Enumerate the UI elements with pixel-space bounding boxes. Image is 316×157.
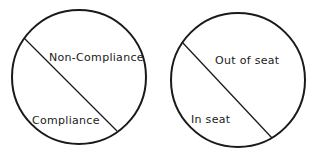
upper-label: Non-Compliance	[49, 51, 144, 64]
lower-label: Compliance	[32, 114, 100, 127]
lower-label: In seat	[191, 113, 231, 126]
circle-diagram-seat: Out of seat In seat	[171, 13, 305, 147]
circle-diagram-compliance: Non-Compliance Compliance	[12, 10, 146, 144]
circle-outline	[171, 13, 305, 147]
divided-circles-diagram: Non-Compliance Compliance Out of seat In…	[0, 0, 316, 157]
upper-label: Out of seat	[215, 54, 280, 67]
